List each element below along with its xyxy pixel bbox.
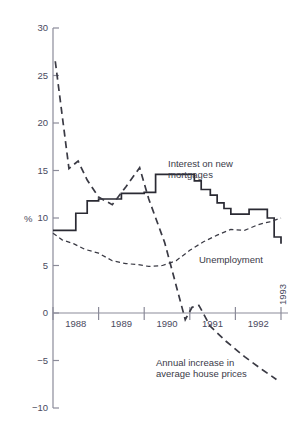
y-tick-label--10: −10 — [32, 402, 48, 413]
series-label-unemployment: Unemployment — [199, 254, 263, 265]
series-label-interest-line2: mortgages — [168, 169, 213, 180]
y-tick-label-30: 30 — [37, 22, 48, 33]
series-group — [53, 61, 281, 379]
y-tick-label-25: 25 — [37, 70, 48, 81]
y-axis-unit-label: % — [24, 213, 33, 224]
y-tick-label-0: 0 — [43, 307, 48, 318]
series-line-interest-on-new-mortgages — [53, 174, 281, 243]
y-tick-label-10: 10 — [37, 212, 48, 223]
y-tick-label-5: 5 — [43, 260, 48, 271]
y-tick-label-20: 20 — [37, 117, 48, 128]
x-tick-label-1989: 1989 — [111, 318, 132, 329]
chart-container: 302520151050−5−10 19881989199019911992 %… — [0, 0, 306, 437]
y-tick-label--5: −5 — [37, 355, 48, 366]
series-label-house-prices-line2: average house prices — [156, 368, 247, 379]
y-tick-label-15: 15 — [37, 165, 48, 176]
x-tick-label-1992: 1992 — [248, 318, 269, 329]
series-label-house-prices-line1: Annual increase in — [156, 357, 234, 368]
axes-group — [53, 28, 288, 408]
x-tick-label-1990: 1990 — [156, 318, 177, 329]
y-axis-tick-labels: 302520151050−5−10 — [32, 22, 48, 413]
x-axis-tick-label-1993: 1993 — [277, 284, 288, 305]
x-axis-tick-labels: 19881989199019911992 — [65, 318, 269, 329]
series-line-annual-increase-house-prices — [55, 61, 276, 379]
house-price-interest-unemployment-chart: 302520151050−5−10 19881989199019911992 %… — [0, 0, 306, 437]
series-label-interest-line1: Interest on new — [168, 158, 233, 169]
x-tick-label-1988: 1988 — [65, 318, 86, 329]
